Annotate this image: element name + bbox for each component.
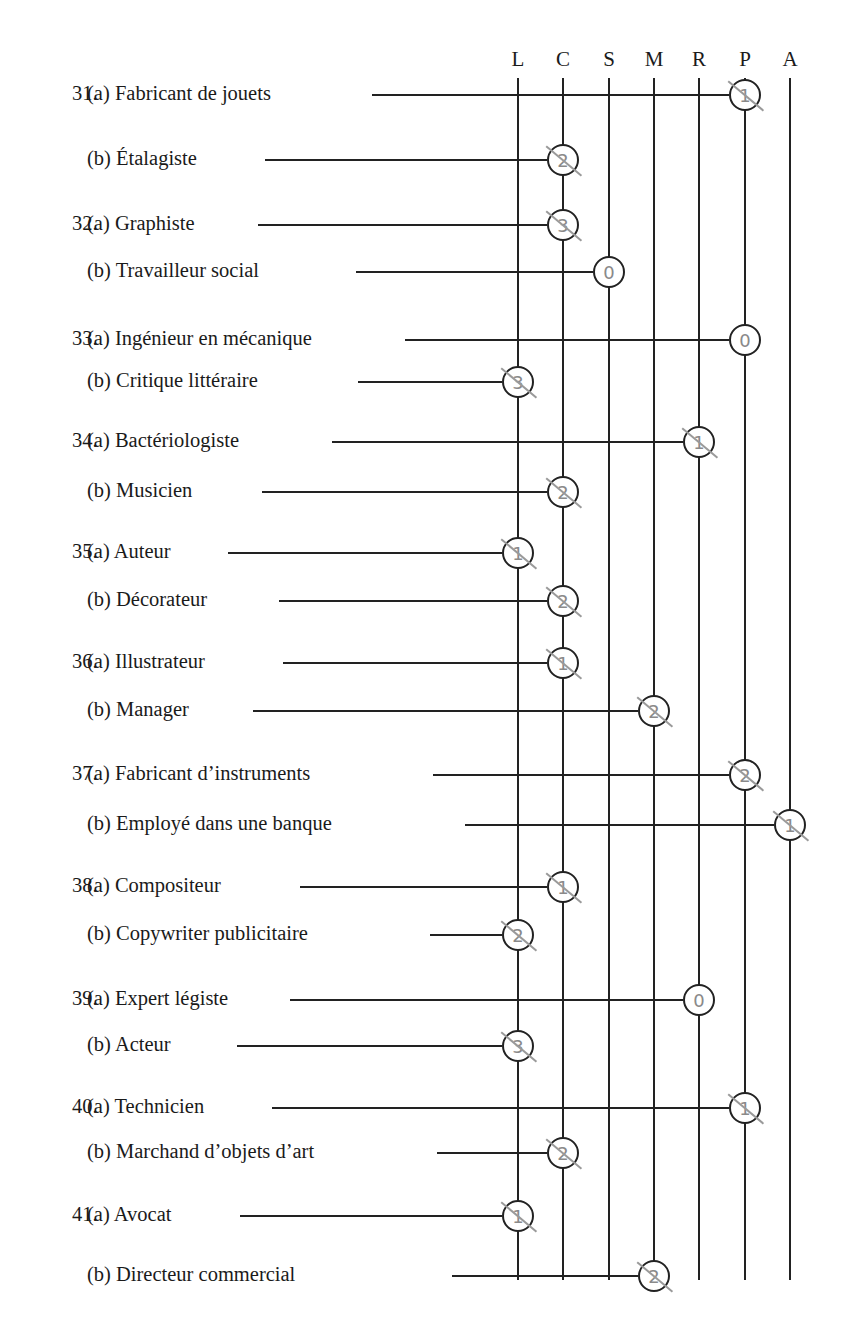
score-circle-s[interactable]: 0 bbox=[593, 256, 625, 288]
score-value: 2 bbox=[739, 765, 750, 786]
column-header-r: R bbox=[692, 47, 706, 72]
column-header-s: S bbox=[603, 47, 615, 72]
score-value: 2 bbox=[557, 591, 568, 612]
score-value: 1 bbox=[739, 1098, 750, 1119]
score-value: 1 bbox=[512, 543, 523, 564]
connector-line bbox=[279, 600, 547, 602]
column-line-m bbox=[653, 78, 655, 1280]
score-value: 0 bbox=[603, 262, 614, 283]
score-value: 1 bbox=[693, 432, 704, 453]
connector-line bbox=[430, 934, 502, 936]
score-circle-c[interactable]: 2 bbox=[547, 144, 579, 176]
connector-line bbox=[372, 94, 729, 96]
item-label: (b) Copywriter publicitaire bbox=[87, 921, 308, 945]
item-label: (a) Avocat bbox=[87, 1202, 171, 1226]
connector-line bbox=[265, 159, 547, 161]
score-circle-p[interactable]: 1 bbox=[729, 1092, 761, 1124]
column-line-c bbox=[562, 78, 564, 1280]
connector-line bbox=[253, 710, 638, 712]
connector-line bbox=[358, 381, 502, 383]
item-label: (b) Acteur bbox=[87, 1032, 171, 1056]
score-circle-r[interactable]: 1 bbox=[683, 426, 715, 458]
score-circle-m[interactable]: 2 bbox=[638, 695, 670, 727]
item-label: (b) Étalagiste bbox=[87, 146, 197, 170]
connector-line bbox=[290, 999, 683, 1001]
score-value: 3 bbox=[557, 215, 568, 236]
item-label: (b) Employé dans une banque bbox=[87, 811, 332, 835]
score-circle-l[interactable]: 2 bbox=[502, 919, 534, 951]
score-circle-m[interactable]: 2 bbox=[638, 1260, 670, 1292]
connector-line bbox=[300, 886, 547, 888]
item-label: (a) Expert légiste bbox=[87, 986, 228, 1010]
score-circle-c[interactable]: 2 bbox=[547, 1137, 579, 1169]
score-circle-c[interactable]: 2 bbox=[547, 476, 579, 508]
score-circle-c[interactable]: 2 bbox=[547, 585, 579, 617]
score-circle-l[interactable]: 1 bbox=[502, 1200, 534, 1232]
score-value: 0 bbox=[693, 990, 704, 1011]
score-circle-r[interactable]: 0 bbox=[683, 984, 715, 1016]
score-circle-c[interactable]: 1 bbox=[547, 871, 579, 903]
connector-line bbox=[272, 1107, 729, 1109]
score-value: 2 bbox=[557, 1143, 568, 1164]
score-circle-p[interactable]: 1 bbox=[729, 79, 761, 111]
column-line-a bbox=[789, 78, 791, 1280]
column-header-l: L bbox=[512, 47, 525, 72]
connector-line bbox=[356, 271, 593, 273]
column-header-a: A bbox=[782, 47, 797, 72]
item-label: (b) Marchand d’objets d’art bbox=[87, 1139, 314, 1163]
score-value: 1 bbox=[739, 85, 750, 106]
score-circle-p[interactable]: 0 bbox=[729, 324, 761, 356]
score-circle-c[interactable]: 1 bbox=[547, 647, 579, 679]
score-circle-l[interactable]: 3 bbox=[502, 366, 534, 398]
score-value: 1 bbox=[784, 815, 795, 836]
connector-line bbox=[237, 1045, 502, 1047]
item-label: (a) Fabricant d’instruments bbox=[87, 761, 310, 785]
answer-sheet: LCSMRPA31.(a) Fabricant de jouets1(b) Ét… bbox=[0, 0, 850, 1330]
item-label: (b) Critique littéraire bbox=[87, 368, 258, 392]
connector-line bbox=[433, 774, 729, 776]
connector-line bbox=[258, 224, 547, 226]
item-label: (a) Bactériologiste bbox=[87, 428, 239, 452]
connector-line bbox=[262, 491, 547, 493]
column-header-m: M bbox=[645, 47, 664, 72]
column-header-c: C bbox=[556, 47, 570, 72]
item-label: (a) Auteur bbox=[87, 539, 171, 563]
score-value: 3 bbox=[512, 1036, 523, 1057]
score-circle-a[interactable]: 1 bbox=[774, 809, 806, 841]
connector-line bbox=[465, 824, 774, 826]
connector-line bbox=[240, 1215, 502, 1217]
score-value: 2 bbox=[512, 925, 523, 946]
score-value: 0 bbox=[739, 330, 750, 351]
item-label: (b) Directeur commercial bbox=[87, 1262, 295, 1286]
connector-line bbox=[228, 552, 502, 554]
item-label: (b) Manager bbox=[87, 697, 189, 721]
score-value: 2 bbox=[557, 150, 568, 171]
score-circle-l[interactable]: 1 bbox=[502, 537, 534, 569]
score-circle-l[interactable]: 3 bbox=[502, 1030, 534, 1062]
score-value: 1 bbox=[557, 653, 568, 674]
connector-line bbox=[332, 441, 683, 443]
score-value: 2 bbox=[557, 482, 568, 503]
score-value: 2 bbox=[648, 1266, 659, 1287]
item-label: (a) Illustrateur bbox=[87, 649, 205, 673]
score-value: 2 bbox=[648, 701, 659, 722]
connector-line bbox=[437, 1152, 547, 1154]
score-circle-p[interactable]: 2 bbox=[729, 759, 761, 791]
item-label: (a) Technicien bbox=[87, 1094, 204, 1118]
item-label: (b) Décorateur bbox=[87, 587, 207, 611]
connector-line bbox=[452, 1275, 638, 1277]
score-value: 3 bbox=[512, 372, 523, 393]
column-line-r bbox=[698, 78, 700, 1280]
item-label: (b) Musicien bbox=[87, 478, 192, 502]
item-label: (a) Compositeur bbox=[87, 873, 221, 897]
connector-line bbox=[405, 339, 729, 341]
score-circle-c[interactable]: 3 bbox=[547, 209, 579, 241]
connector-line bbox=[283, 662, 547, 664]
item-label: (a) Fabricant de jouets bbox=[87, 81, 271, 105]
score-value: 1 bbox=[557, 877, 568, 898]
column-header-p: P bbox=[739, 47, 751, 72]
item-label: (a) Ingénieur en mécanique bbox=[87, 326, 312, 350]
score-value: 1 bbox=[512, 1206, 523, 1227]
item-label: (a) Graphiste bbox=[87, 211, 195, 235]
column-line-l bbox=[517, 78, 519, 1280]
